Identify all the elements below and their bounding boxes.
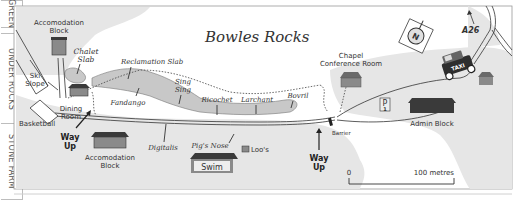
crag-label: Pig's Nose	[190, 142, 228, 150]
building-roof-icon	[51, 37, 67, 40]
crag-label: Sing	[175, 78, 192, 86]
building-label: Block	[50, 27, 70, 35]
building-swim[interactable]: Swim	[190, 153, 238, 173]
building-label: Swim	[201, 163, 223, 172]
building-icon	[94, 137, 126, 148]
building-label: Room	[61, 113, 81, 121]
building-label: Loo's	[251, 146, 269, 154]
crag-label: Slab	[78, 55, 95, 64]
building-label: Dining	[60, 105, 83, 113]
way-up-label: Up	[313, 163, 325, 172]
building-label: Chapel	[339, 52, 363, 60]
map-title: Bowles Rocks	[204, 28, 310, 46]
crag-label: Reclamation Slab	[120, 58, 184, 66]
ski-slope-label: Slope	[25, 80, 44, 88]
parking-number: 1	[383, 106, 387, 112]
way-up-label: Way	[310, 154, 330, 163]
toilet-icon	[242, 146, 249, 152]
way-up-label: Up	[64, 142, 76, 151]
way-up-label: Way	[61, 133, 81, 142]
scale-start-label: 0	[347, 169, 351, 177]
crag-label: Ricochet	[200, 96, 232, 104]
scale-end-label: 100 metres	[414, 169, 454, 177]
site-map: Bowles Rocks Accomodation Block Dining R…	[0, 0, 514, 203]
building-icon	[70, 88, 88, 96]
building-label: Block	[101, 162, 121, 170]
crag-label: Bovril	[286, 92, 308, 100]
ski-slope-label: Ski	[30, 72, 40, 80]
building-icon	[410, 103, 454, 113]
building-roof-icon	[190, 153, 238, 159]
parking-p1[interactable]: P 1	[380, 98, 390, 112]
basketball-label: Basketball	[19, 120, 55, 128]
road-label: A26	[461, 26, 480, 35]
building-icon	[341, 78, 361, 87]
barrier-label: Barrier	[332, 130, 351, 136]
crag-label: Larchant	[240, 96, 273, 104]
crag-label: Digitalis	[147, 144, 178, 152]
building-label: Accomodation	[85, 154, 135, 162]
building-admin[interactable]: Admin Block	[408, 98, 456, 128]
building-icon	[52, 39, 66, 55]
house-icon	[479, 77, 493, 85]
crag-label: Fandango	[110, 99, 146, 107]
building-label: Accomodation	[34, 19, 84, 27]
building-label: Admin Block	[410, 120, 454, 128]
building-roof-icon	[408, 98, 456, 103]
building-roof-icon	[91, 132, 129, 137]
crag-label: Sing	[175, 86, 192, 94]
building-label: Conference Room	[320, 60, 382, 68]
